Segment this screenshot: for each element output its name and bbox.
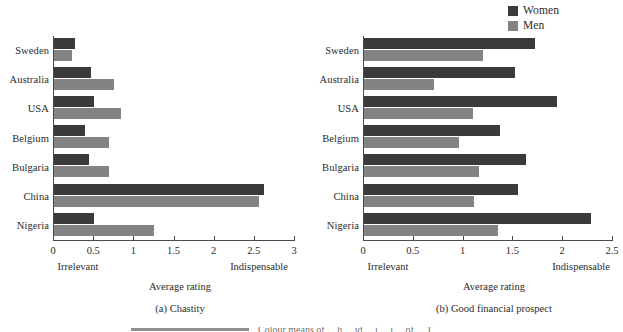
axis-title-b: Average rating: [310, 281, 623, 292]
bar-women: [54, 125, 85, 136]
anchor-label-high: Indispensable: [230, 261, 288, 272]
axis-tick-label: 3: [291, 245, 296, 256]
chart-panel-a: Sweden Australia USA Belgium Bulgaria Ch…: [0, 0, 308, 332]
axis-tick-label: 2.5: [247, 245, 260, 256]
bar-men: [54, 79, 114, 90]
plot-area-b: [363, 36, 612, 240]
axis-tick-label: 1.5: [506, 245, 519, 256]
bar-women: [54, 213, 94, 224]
bar-rows-b: [364, 36, 612, 240]
bar-men: [54, 108, 121, 119]
bar-women: [54, 154, 89, 165]
bar-women: [54, 96, 94, 107]
bar-women: [364, 38, 535, 49]
bar-men: [364, 50, 483, 61]
bar-group: [54, 36, 294, 65]
bar-group: [364, 65, 612, 94]
axis-tick: [512, 236, 513, 241]
bar-men: [364, 225, 498, 236]
axis-tick-label: 0: [360, 245, 365, 256]
plot-area-a: [53, 36, 294, 240]
bar-men: [364, 108, 473, 119]
category-label: Nigeria: [0, 221, 49, 232]
value-axis-b: 0 0.5 1 1.5 2 2.5: [363, 240, 612, 241]
bar-men: [54, 196, 259, 207]
category-label: Sweden: [0, 46, 49, 57]
axis-tick: [294, 236, 295, 241]
bar-group: [364, 152, 612, 181]
bar-men: [54, 50, 72, 61]
category-label: USA: [310, 104, 359, 115]
bar-women: [364, 213, 591, 224]
chart-panel-b: Sweden Australia USA Belgium Bulgaria Ch…: [310, 0, 618, 332]
category-label: Belgium: [310, 134, 359, 145]
axis-tick: [133, 236, 134, 241]
bar-group: [54, 65, 294, 94]
axis-line: [363, 240, 612, 241]
axis-tick: [463, 236, 464, 241]
axis-tick: [363, 236, 364, 241]
bar-group: [54, 152, 294, 181]
axis-tick-label: 1: [460, 245, 465, 256]
bar-group: [54, 94, 294, 123]
axis-tick: [53, 236, 54, 241]
axis-tick-label: 0.5: [406, 245, 419, 256]
axis-tick-label: 1.5: [167, 245, 180, 256]
category-label: China: [310, 192, 359, 203]
bar-group: [364, 211, 612, 240]
axis-tick: [93, 236, 94, 241]
panel-caption-b: (b) Good financial prospect: [310, 303, 623, 314]
bar-women: [54, 184, 264, 195]
bar-men: [54, 137, 109, 148]
bar-men: [364, 79, 434, 90]
bar-men: [54, 166, 109, 177]
category-label: Bulgaria: [310, 163, 359, 174]
axis-tick-label: 0.5: [87, 245, 100, 256]
category-label: Bulgaria: [0, 163, 49, 174]
axis-tick-label: 0: [50, 245, 55, 256]
axis-tick: [413, 236, 414, 241]
category-label: USA: [0, 104, 49, 115]
axis-tick: [612, 236, 613, 241]
bar-women: [364, 125, 500, 136]
bar-group: [364, 182, 612, 211]
axis-tick-label: 1: [131, 245, 136, 256]
bar-women: [54, 67, 91, 78]
bar-men: [364, 166, 479, 177]
axis-tick: [254, 236, 255, 241]
bar-men: [364, 137, 459, 148]
category-label: China: [0, 192, 49, 203]
bar-group: [54, 123, 294, 152]
bar-group: [364, 94, 612, 123]
category-label: Sweden: [310, 46, 359, 57]
category-axis-labels-b: Sweden Australia USA Belgium Bulgaria Ch…: [310, 36, 359, 240]
bar-women: [54, 38, 75, 49]
bar-women: [364, 67, 515, 78]
bar-men: [54, 225, 154, 236]
anchor-label-low: Irrelevant: [368, 261, 409, 272]
category-label: Australia: [0, 75, 49, 86]
category-label: Nigeria: [310, 221, 359, 232]
bar-men: [364, 196, 474, 207]
axis-tick-label: 2: [211, 245, 216, 256]
axis-tick: [214, 236, 215, 241]
bar-rows-a: [54, 36, 294, 240]
category-label: Australia: [310, 75, 359, 86]
category-label: Belgium: [0, 134, 49, 145]
category-axis-labels-a: Sweden Australia USA Belgium Bulgaria Ch…: [0, 36, 49, 240]
caption-rule: [131, 328, 249, 331]
bar-women: [364, 184, 518, 195]
axis-tick-label: 2.5: [605, 245, 618, 256]
caption-text: Colour means of ... h ... id ... i ... i…: [258, 327, 432, 332]
value-axis-a: 0 0.5 1 1.5 2 2.5 3: [53, 240, 294, 241]
bar-group: [364, 123, 612, 152]
axis-tick: [174, 236, 175, 241]
panel-caption-a: (a) Chastity: [0, 303, 334, 314]
axis-tick-label: 2: [560, 245, 565, 256]
axis-tick: [562, 236, 563, 241]
bar-women: [364, 154, 526, 165]
cut-off-caption-strip: Colour means of ... h ... id ... i ... i…: [0, 327, 618, 332]
bar-women: [364, 96, 557, 107]
bar-group: [54, 182, 294, 211]
